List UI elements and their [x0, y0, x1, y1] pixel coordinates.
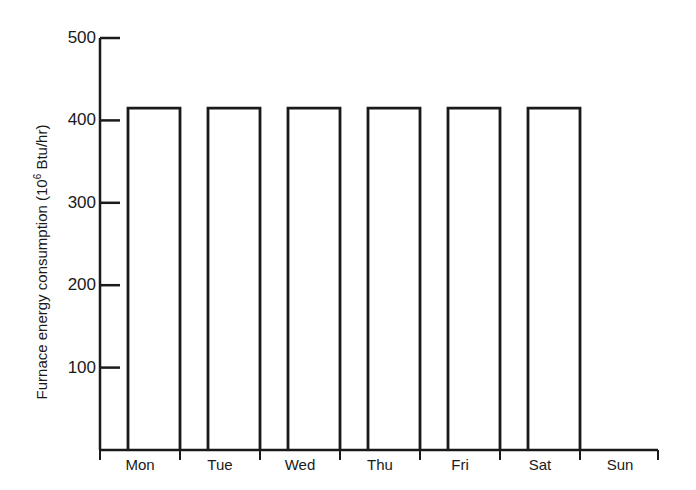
bar-mon	[128, 108, 180, 450]
y-tick-label: 200	[46, 275, 96, 295]
plot-area	[0, 0, 696, 490]
bar-wed	[288, 108, 340, 450]
x-tick-label: Fri	[430, 456, 490, 473]
x-tick-label: Thu	[350, 456, 410, 473]
y-tick-label: 300	[46, 193, 96, 213]
y-tick-label: 500	[46, 28, 96, 48]
x-tick-label: Wed	[270, 456, 330, 473]
bar-thu	[368, 108, 420, 450]
x-tick-label: Mon	[110, 456, 170, 473]
bar-chart: Furnace energy consumption (106 Btu/hr) …	[0, 0, 696, 490]
x-tick-label: Sun	[590, 456, 650, 473]
bar-sat	[528, 108, 580, 450]
x-tick-label: Tue	[190, 456, 250, 473]
bar-fri	[448, 108, 500, 450]
bar-tue	[208, 108, 260, 450]
y-tick-label: 400	[46, 110, 96, 130]
x-tick-label: Sat	[510, 456, 570, 473]
y-tick-label: 100	[46, 358, 96, 378]
